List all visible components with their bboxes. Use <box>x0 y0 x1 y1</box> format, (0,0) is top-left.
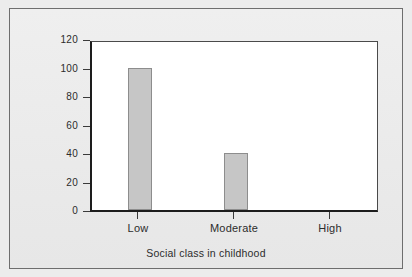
y-axis-tick <box>83 69 90 70</box>
figure: H. pylori infected, % 020406080100120 Lo… <box>0 0 412 277</box>
y-axis-tick-label: 120 <box>38 34 78 45</box>
x-axis-tick <box>137 212 138 219</box>
bar-moderate <box>224 153 248 210</box>
plot-area <box>90 41 378 212</box>
x-axis-tick-label: High <box>270 222 390 234</box>
y-axis-tick-label: 20 <box>38 177 78 188</box>
y-axis-tick-label: 80 <box>38 91 78 102</box>
y-axis-tick <box>83 40 90 41</box>
y-axis-tick <box>83 126 90 127</box>
y-axis-tick <box>83 97 90 98</box>
y-axis-tick <box>83 154 90 155</box>
x-axis-title: Social class in childhood <box>0 247 412 259</box>
y-axis-tick-label: 60 <box>38 120 78 131</box>
y-axis-tick <box>83 183 90 184</box>
x-axis-tick <box>329 212 330 219</box>
y-axis-tick-label: 40 <box>38 148 78 159</box>
x-axis-tick <box>233 212 234 219</box>
bars-layer <box>92 42 377 210</box>
y-axis-tick-label: 0 <box>38 205 78 216</box>
y-axis-tick <box>83 211 90 212</box>
bar-low <box>128 68 152 211</box>
y-axis-tick-label: 100 <box>38 63 78 74</box>
